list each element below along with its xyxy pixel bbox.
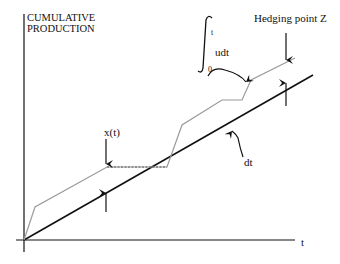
state-label: x(t): [104, 127, 120, 138]
y-axis-label: CUMULATIVE PRODUCTION: [27, 12, 95, 34]
production-curve: [24, 58, 295, 240]
demand-line: [24, 75, 313, 240]
integral-upper-limit: t: [211, 27, 213, 38]
hedging-point-label: Hedging point Z: [254, 13, 327, 24]
integral-lower-limit: 0: [208, 64, 212, 75]
x-axis-label: t: [301, 237, 304, 248]
y-axis-label-line1: CUMULATIVE: [27, 12, 95, 23]
y-axis-label-line2: PRODUCTION: [27, 23, 95, 34]
dt-pointer-arrow: [232, 131, 243, 157]
demand-label: dt: [244, 157, 253, 168]
integral-body-label: udt: [215, 47, 229, 58]
diagram-canvas: [0, 0, 340, 264]
udt-pointer-arrow: [208, 69, 246, 82]
